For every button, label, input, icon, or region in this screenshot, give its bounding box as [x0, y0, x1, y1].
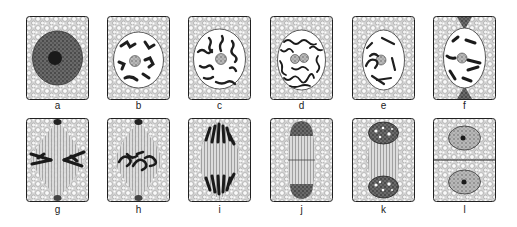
- cell-panel-e: [352, 16, 415, 100]
- panel-label-e: e: [352, 101, 415, 111]
- panel-label-d: d: [270, 101, 333, 111]
- panel-label-j: j: [270, 205, 333, 215]
- prophase-cell-illustration: [188, 16, 251, 100]
- early-prophase-cell-illustration: [107, 16, 170, 100]
- cell-panel-a: [26, 16, 89, 100]
- cell-panel-b: [107, 16, 170, 100]
- cell-panel-c: [188, 16, 251, 100]
- metaphase-cell-illustration: [26, 118, 89, 202]
- telophase-cell-illustration: [352, 118, 415, 202]
- panel-label-k: k: [352, 205, 415, 215]
- panel-label-b: b: [107, 101, 170, 111]
- anaphase-cell-illustration: [188, 118, 251, 202]
- cell-panel-l: [433, 118, 496, 202]
- late-anaphase-cell-illustration: [270, 118, 333, 202]
- panel-label-c: c: [188, 101, 251, 111]
- late-metaphase-cell-illustration: [107, 118, 170, 202]
- cell-panel-f: [433, 16, 496, 100]
- panel-label-f: f: [433, 101, 496, 111]
- cell-panel-h: [107, 118, 170, 202]
- interphase-cell-illustration: [26, 16, 89, 100]
- panel-label-g: g: [26, 205, 89, 215]
- panel-label-i: i: [188, 205, 251, 215]
- cell-panel-k: [352, 118, 415, 202]
- panel-label-a: a: [26, 101, 89, 111]
- spireme-cell-illustration: [270, 16, 333, 100]
- panel-label-l: l: [433, 205, 496, 215]
- cytokinesis-cell-illustration: [433, 118, 496, 202]
- late-prophase-cell-illustration: [352, 16, 415, 100]
- cell-panel-d: [270, 16, 333, 100]
- cell-panel-g: [26, 118, 89, 202]
- cell-panel-j: [270, 118, 333, 202]
- panel-label-h: h: [107, 205, 170, 215]
- prometaphase-cell-illustration: [433, 16, 496, 100]
- cell-panel-i: [188, 118, 251, 202]
